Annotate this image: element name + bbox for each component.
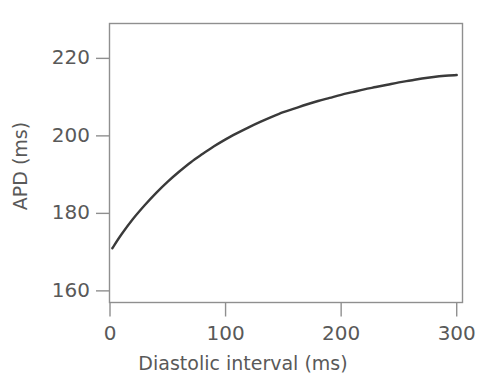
x-tick-label: 0 bbox=[60, 321, 160, 345]
y-axis-title: APD (ms) bbox=[9, 66, 31, 266]
x-tick-label: 200 bbox=[291, 321, 391, 345]
plot-frame bbox=[110, 24, 463, 303]
x-axis-title: Diastolic interval (ms) bbox=[0, 352, 486, 374]
y-axis-tick-marks bbox=[96, 58, 110, 291]
data-series-line bbox=[112, 75, 456, 248]
x-tick-label: 300 bbox=[407, 321, 486, 345]
x-axis-tick-marks bbox=[110, 303, 457, 317]
y-axis-title-wrap: APD (ms) bbox=[0, 0, 40, 330]
chart-figure: 160180200220 0100200300 APD (ms) Diastol… bbox=[0, 0, 486, 389]
x-tick-label: 100 bbox=[176, 321, 276, 345]
